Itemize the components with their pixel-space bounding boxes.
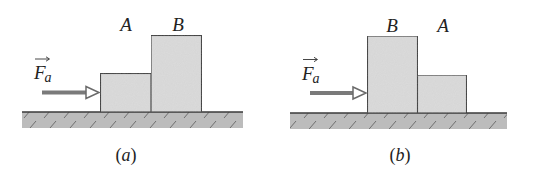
label-block-a: A	[118, 14, 132, 35]
svg-text:Fa: Fa	[33, 62, 52, 85]
block-b-large	[368, 36, 418, 113]
caption-a: (a)	[116, 145, 137, 166]
panel-a: Fa A B (a)	[22, 14, 243, 166]
force-label-b: Fa	[301, 57, 320, 86]
panel-b: Fa B A (b)	[290, 15, 507, 166]
two-block-force-diagram: Fa A B (a) Fa	[0, 0, 533, 179]
label-block-b: B	[386, 15, 398, 36]
ground-surface-a	[22, 112, 243, 128]
svg-text:Fa: Fa	[301, 63, 320, 86]
force-arrow-icon	[42, 87, 99, 99]
block-b-large	[151, 36, 202, 113]
ground-surface-b	[290, 113, 507, 129]
vector-arrow-icon	[35, 57, 50, 61]
force-label-a: Fa	[33, 57, 52, 85]
vector-arrow-icon	[303, 57, 318, 61]
label-block-a: A	[435, 15, 449, 36]
block-a-small	[418, 75, 467, 113]
force-arrow-icon	[310, 87, 366, 99]
block-a-small	[101, 74, 152, 113]
label-block-b: B	[172, 14, 184, 35]
caption-b: (b)	[390, 145, 411, 166]
